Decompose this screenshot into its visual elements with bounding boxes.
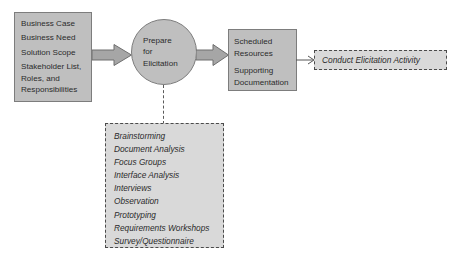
task-label-line3: Elicitation <box>143 58 196 70</box>
outputs-box: Scheduled Resources Supporting Documenta… <box>228 29 297 91</box>
downstream-activity-label: Conduct Elicitation Activity <box>322 55 420 65</box>
input-item-stakeholder-list-line1: Stakeholder List, <box>21 61 86 72</box>
output-supporting-documentation-line2: Documentation <box>234 77 292 89</box>
downstream-activity-box: Conduct Elicitation Activity <box>314 50 447 70</box>
arrow-outputs-to-activity-icon <box>296 52 316 68</box>
input-item-stakeholder-list-line2: Roles, and <box>21 73 86 84</box>
dashed-connector-task-to-techniques <box>163 85 165 124</box>
technique-item-focus-groups: Focus Groups <box>114 156 223 169</box>
technique-item-survey-questionnaire: Survey/Questionnaire <box>114 235 223 248</box>
technique-item-brainstorming: Brainstorming <box>114 130 223 143</box>
output-supporting-documentation-line1: Supporting <box>234 65 292 77</box>
input-item-solution-scope: Solution Scope <box>21 47 86 58</box>
input-item-stakeholder-list-line3: Responsibilities <box>21 84 86 95</box>
output-scheduled-resources-line2: Resources <box>234 48 292 60</box>
diagram-canvas: Business Case Business Need Solution Sco… <box>0 0 454 262</box>
arrow-task-to-outputs-icon <box>196 44 229 66</box>
technique-item-prototyping: Prototyping <box>114 209 223 222</box>
techniques-box: Brainstorming Document Analysis Focus Gr… <box>105 123 224 248</box>
technique-item-document-analysis: Document Analysis <box>114 143 223 156</box>
input-item-business-need: Business Need <box>21 32 86 43</box>
inputs-box: Business Case Business Need Solution Sco… <box>14 12 92 102</box>
technique-item-interface-analysis: Interface Analysis <box>114 169 223 182</box>
output-scheduled-resources-line1: Scheduled <box>234 36 292 48</box>
input-item-business-case: Business Case <box>21 18 86 29</box>
task-label-line1: Prepare <box>143 35 196 47</box>
technique-item-interviews: Interviews <box>114 182 223 195</box>
arrow-inputs-to-task-icon <box>92 44 132 66</box>
technique-item-requirements-workshops: Requirements Workshops <box>114 222 223 235</box>
task-circle-prepare-for-elicitation: Prepare for Elicitation <box>131 19 197 85</box>
task-label-line2: for <box>143 46 196 58</box>
technique-item-observation: Observation <box>114 195 223 208</box>
input-item-stakeholder-list: Stakeholder List, Roles, and Responsibil… <box>21 61 86 95</box>
